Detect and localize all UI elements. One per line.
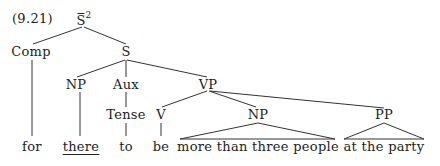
node-tense: Tense [106, 108, 146, 122]
word-be: be [153, 140, 170, 154]
node-s: S [121, 45, 130, 59]
node-s-bar-2: S2 [76, 10, 91, 28]
node-s-bar-label: S [76, 14, 85, 28]
node-v: V [156, 108, 166, 122]
node-vp: VP [199, 78, 218, 92]
node-np-object: NP [248, 108, 269, 122]
word-to: to [119, 140, 133, 154]
phrase-pp: at the party [344, 140, 425, 154]
example-number: (9.21) [12, 12, 53, 26]
node-pp: PP [375, 108, 393, 122]
node-comp: Comp [11, 45, 51, 59]
phrase-np: more than three people [177, 140, 339, 154]
node-np-subject: NP [66, 78, 87, 92]
word-there: there [63, 140, 100, 154]
node-s-bar-superscript: 2 [86, 10, 92, 20]
word-for: for [22, 140, 42, 154]
node-aux: Aux [113, 78, 139, 92]
